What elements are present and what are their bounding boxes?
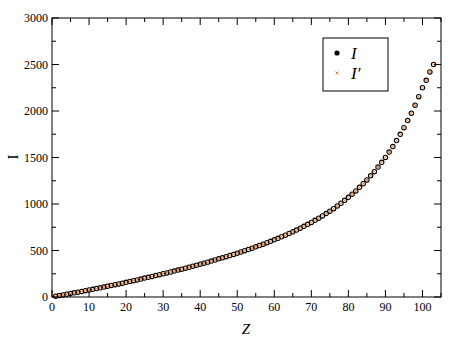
y-tick-label: 0 bbox=[42, 290, 48, 304]
y-tick-label: 2500 bbox=[24, 58, 48, 72]
x-tick-label: 90 bbox=[379, 300, 391, 314]
x-tick-label: 30 bbox=[157, 300, 169, 314]
x-tick-label: 10 bbox=[83, 300, 95, 314]
y-tick-label: 2000 bbox=[24, 104, 48, 118]
legend: I I′ bbox=[323, 38, 388, 91]
y-tick-label: 1000 bbox=[24, 197, 48, 211]
x-tick-label: 70 bbox=[305, 300, 317, 314]
x-tick-label: 40 bbox=[194, 300, 206, 314]
x-tick-label: 20 bbox=[120, 300, 132, 314]
y-tick-label: 500 bbox=[30, 244, 48, 258]
x-tick-label: 60 bbox=[268, 300, 280, 314]
chart: 0102030405060708090100050010001500200025… bbox=[0, 0, 452, 342]
x-tick-label: 100 bbox=[413, 300, 431, 314]
legend-marker-i-icon bbox=[334, 50, 339, 55]
x-tick-label: 50 bbox=[231, 300, 243, 314]
y-tick-label: 3000 bbox=[24, 11, 48, 25]
x-tick-label: 80 bbox=[342, 300, 354, 314]
y-tick-label: 1500 bbox=[24, 151, 48, 165]
legend-label-i-prime: I′ bbox=[350, 64, 361, 83]
data-points bbox=[54, 62, 436, 298]
x-axis-label: Z bbox=[242, 321, 251, 337]
x-tick-label: 0 bbox=[49, 300, 55, 314]
y-axis-label: I bbox=[5, 155, 21, 160]
